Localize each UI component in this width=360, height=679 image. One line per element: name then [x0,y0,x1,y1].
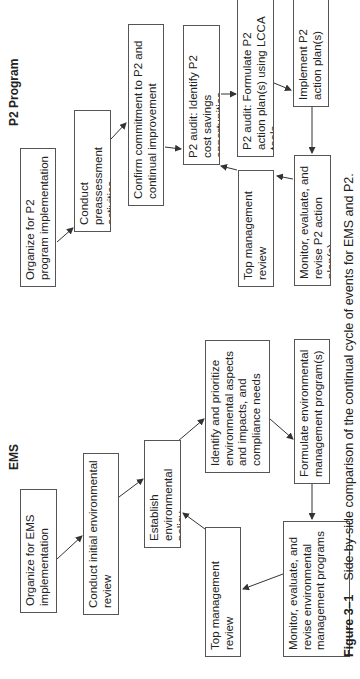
p2-monitor-box: Monitor, evaluate, and revise P2 action … [294,155,331,286]
p2-title: P2 Program [7,59,21,126]
ems-organize-box: Organize for EMS implementation [20,489,57,613]
p2-confirm-box: Confirm commitment to P2 and continual i… [128,24,164,206]
ems-establish-policy-box: Establish environmental policy [144,440,181,548]
p2-preassessment-box: Conduct preassessment activities [74,110,111,232]
p2-audit-formulate-box: P2 audit: Formulate P2 action plan(s) us… [237,0,274,157]
ems-conduct-review-box: Conduct initial environmental review [83,453,119,615]
figure-caption: Figure 3–1Side-by-side comparison of the… [342,173,356,657]
caption-text: Side-by-side comparison of the continual… [342,173,356,580]
ems-title: EMS [7,444,21,470]
p2-implement-box: Implement P2 action plan(s) [293,0,329,107]
p2-top-review-box: Top management review [238,170,274,287]
ems-identify-aspects-box: Identify and prioritize environmental as… [205,340,270,473]
ems-top-review-box: Top management review [205,527,241,657]
ems-monitor-box: Monitor, evaluate, and revise environmen… [283,521,350,657]
caption-label: Figure 3–1 [342,594,356,657]
ems-formulate-programs-box: Formulate environmental management progr… [294,339,330,484]
p2-organize-box: Organize for P2 program implementation [20,148,56,287]
p2-audit-identify-box: P2 audit: Identify P2 cost savings oppor… [183,25,220,165]
figure-canvas: EMS Organize for EMS implementation Cond… [0,0,360,679]
